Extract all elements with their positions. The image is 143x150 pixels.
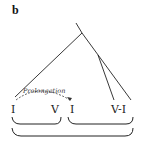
arrowhead-icon bbox=[67, 97, 72, 101]
branch-to-right bbox=[82, 33, 131, 100]
root-stem bbox=[76, 23, 82, 33]
tree-diagram: Prolongation I V I V-I bbox=[0, 0, 143, 150]
leaf-I-1: I bbox=[11, 103, 15, 116]
leaf-V: V bbox=[50, 103, 60, 116]
leaf-V-I: V-I bbox=[110, 103, 126, 116]
prolongation-label: Prolongation bbox=[22, 87, 65, 95]
group-bracket-I-V bbox=[12, 117, 61, 124]
branch-to-V bbox=[98, 55, 114, 100]
group-bracket-I-V-I bbox=[68, 117, 133, 124]
group-bracket-all bbox=[12, 128, 133, 136]
leaf-I-2: I bbox=[70, 103, 74, 116]
